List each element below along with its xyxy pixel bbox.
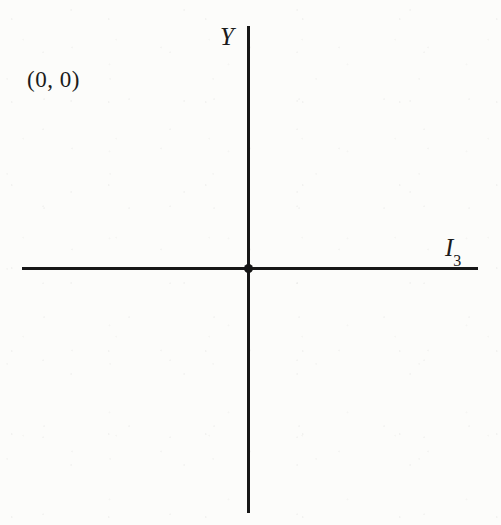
- origin-coordinate-label: (0, 0): [27, 68, 80, 91]
- y-axis-label: Y: [220, 24, 234, 49]
- origin-point-marker: [244, 264, 253, 273]
- x-axis-label: I3: [445, 235, 461, 265]
- x-axis-label-subscript: 3: [453, 252, 461, 269]
- coordinate-axes-figure: Y I3 (0, 0): [0, 0, 501, 525]
